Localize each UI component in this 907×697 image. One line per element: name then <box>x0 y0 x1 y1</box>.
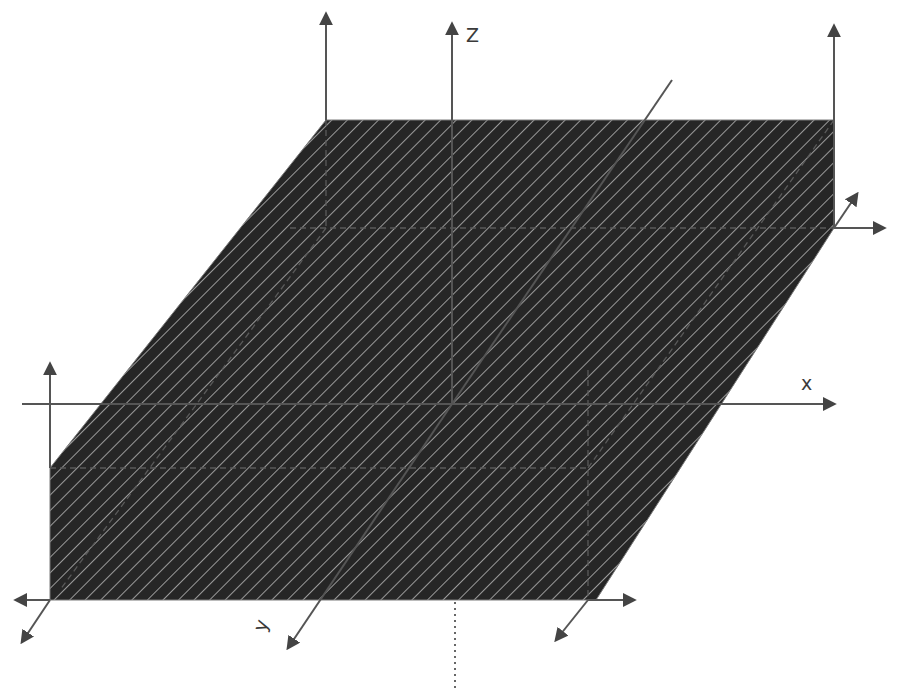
corner-frame-bottom-left <box>16 600 50 642</box>
corner-frame-top-right <box>834 26 884 228</box>
bottom-left-diagonal-arrow <box>22 600 50 642</box>
corner-frame-bottom-right <box>556 600 634 640</box>
bottom-right-diagonal-arrow <box>556 600 588 640</box>
hatched-plane <box>50 120 834 600</box>
y-axis-label: y <box>248 617 272 634</box>
x-axis-label: x <box>801 372 812 394</box>
z-axis-label: Z <box>466 24 479 46</box>
coordinate-diagram: Z x y <box>0 0 907 697</box>
top-right-diagonal-arrow <box>834 194 857 228</box>
